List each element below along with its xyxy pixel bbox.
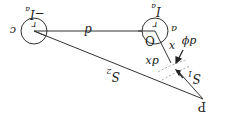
right-side-label-a: a	[171, 24, 177, 35]
left-side-label-c: c	[10, 24, 16, 37]
s2-label: S2	[106, 67, 119, 83]
s2-line	[34, 31, 203, 99]
s1-label: S1	[187, 69, 200, 85]
radius-line-l	[34, 31, 46, 36]
diagram-svg: −Ia c r d Ia r a O x dϕ dx S1 S2 P	[0, 0, 239, 130]
origin-label-o: O	[145, 35, 155, 49]
dphi-label: dϕ	[181, 35, 196, 48]
point-label-p: P	[198, 99, 206, 113]
left-center-label-r: r	[31, 20, 36, 30]
separation-label-d: d	[84, 23, 92, 37]
right-current-label: Ia	[151, 2, 162, 18]
diagram: −Ia c r d Ia r a O x dϕ dx S1 S2 P	[0, 0, 239, 130]
left-current-label: −Ia	[25, 5, 45, 21]
dx-label: dx	[145, 55, 159, 68]
x-label: x	[168, 40, 175, 53]
right-center-label-r: r	[152, 20, 157, 30]
dashed-arcs	[158, 60, 190, 80]
arrows	[176, 50, 183, 78]
